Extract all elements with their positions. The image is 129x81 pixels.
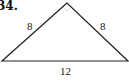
problem-number: 34. [0,0,18,13]
left-side-label: 8 [27,21,33,32]
right-side-label: 8 [100,21,106,32]
triangle-shape [2,3,128,61]
base-side-label: 12 [60,66,71,77]
triangle-figure: 34. 8 8 12 [0,0,129,81]
apex-angle-mark [63,7,71,11]
